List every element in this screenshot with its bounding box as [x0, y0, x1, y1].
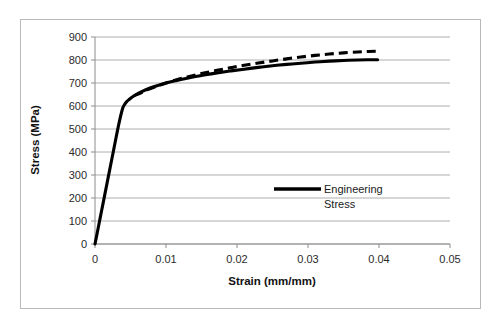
x-tick-labels: 00.010.020.030.040.05	[92, 253, 461, 265]
x-tick-label: 0.01	[155, 253, 176, 265]
true-stress-curve	[134, 51, 378, 95]
chart-figure: 0100200300400500600700800900 00.010.020.…	[20, 19, 481, 309]
y-tick-label: 400	[69, 146, 87, 158]
y-tick-label: 200	[69, 192, 87, 204]
y-axis-title: Stress (MPa)	[29, 105, 41, 175]
y-tick-label: 900	[69, 31, 87, 43]
x-tick-label: 0.04	[368, 253, 389, 265]
y-tick-label: 0	[81, 238, 87, 250]
y-tick-label: 700	[69, 77, 87, 89]
legend-label-line-2: Stress	[324, 198, 356, 210]
x-tick-label: 0	[92, 253, 98, 265]
legend-label-line-1: Engineering	[324, 183, 383, 195]
legend: Engineering Stress	[274, 183, 383, 210]
y-tick-label: 500	[69, 123, 87, 135]
tick-marks-group	[91, 37, 450, 248]
y-tick-label: 600	[69, 100, 87, 112]
x-tick-label: 0.05	[439, 253, 460, 265]
y-tick-label: 300	[69, 169, 87, 181]
stress-strain-chart: 0100200300400500600700800900 00.010.020.…	[21, 20, 480, 308]
gridlines-group	[95, 37, 450, 244]
y-tick-label: 800	[69, 54, 87, 66]
y-tick-label: 100	[69, 215, 87, 227]
x-tick-label: 0.02	[226, 253, 247, 265]
x-tick-label: 0.03	[297, 253, 318, 265]
x-axis-title: Strain (mm/mm)	[228, 275, 316, 287]
y-tick-labels: 0100200300400500600700800900	[69, 31, 87, 250]
